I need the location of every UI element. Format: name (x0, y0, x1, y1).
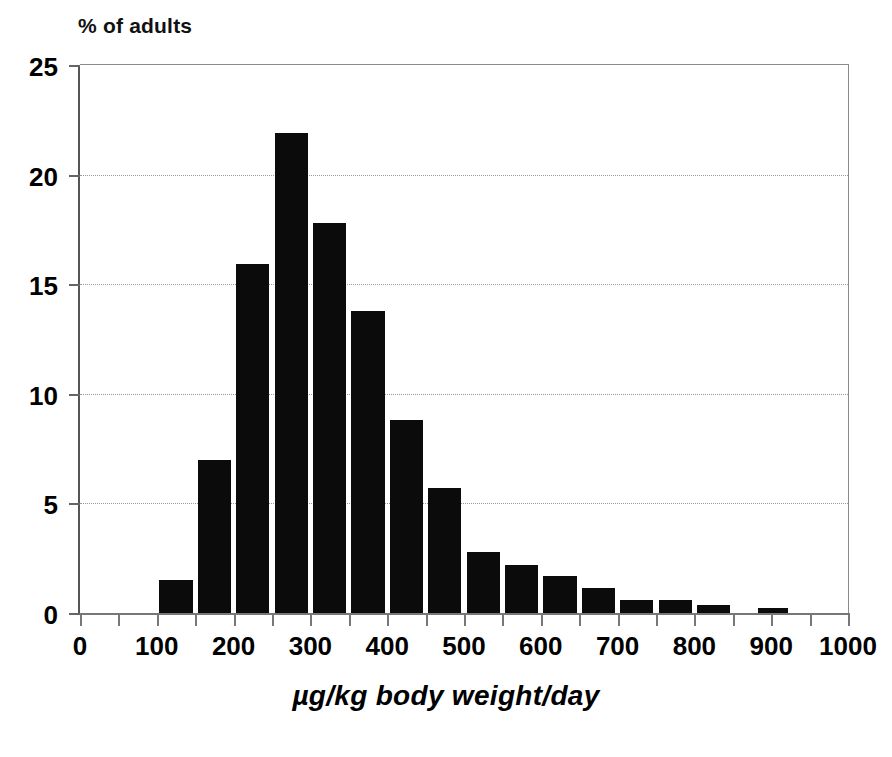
bar-350-400 (351, 311, 384, 613)
x-tick-label-800: 800 (673, 633, 716, 659)
x-tick-900 (771, 613, 773, 626)
histogram-figure: % of adults 0510152025 01002003004005006… (0, 0, 892, 757)
y-tick-label-20: 20 (29, 164, 58, 190)
bar-650-700 (582, 588, 615, 613)
x-axis-title: µg/kg body weight/day (0, 680, 892, 712)
bar-100-150 (159, 580, 192, 613)
bar-450-500 (428, 488, 461, 613)
x-tick-label-1000: 1000 (819, 633, 877, 659)
x-tick-750 (656, 613, 658, 626)
x-tick-650 (579, 613, 581, 626)
x-tick-label-200: 200 (212, 633, 255, 659)
plot-top-border (80, 64, 848, 65)
x-tick-500 (464, 613, 466, 626)
x-tick-100 (157, 613, 159, 626)
y-tick-0: 0 (69, 613, 80, 615)
x-tick-1000 (848, 613, 850, 626)
x-tick-400 (387, 613, 389, 626)
y-tick-20: 20 (69, 175, 80, 177)
x-tick-label-600: 600 (519, 633, 562, 659)
bar-150-200 (198, 460, 231, 613)
x-tick-label-400: 400 (365, 633, 408, 659)
x-tick-label-100: 100 (135, 633, 178, 659)
x-tick-450 (426, 613, 428, 626)
gridline-15 (80, 284, 848, 286)
y-axis-title: % of adults (78, 14, 192, 38)
x-tick-label-300: 300 (289, 633, 332, 659)
x-tick-600 (541, 613, 543, 626)
x-tick-250 (272, 613, 274, 626)
x-tick-50 (118, 613, 120, 626)
y-tick-5: 5 (69, 503, 80, 505)
y-tick-15: 15 (69, 284, 80, 286)
y-tick-label-15: 15 (29, 273, 58, 299)
gridline-5 (80, 503, 848, 505)
bar-500-550 (467, 552, 500, 613)
bar-800-850 (697, 605, 730, 613)
x-tick-150 (195, 613, 197, 626)
y-tick-label-25: 25 (29, 54, 58, 80)
x-tick-850 (733, 613, 735, 626)
x-tick-300 (310, 613, 312, 626)
plot-right-border (848, 64, 849, 613)
bar-250-300 (275, 133, 308, 613)
gridline-10 (80, 394, 848, 396)
bar-200-250 (236, 264, 269, 613)
x-tick-label-500: 500 (442, 633, 485, 659)
x-tick-label-900: 900 (749, 633, 792, 659)
x-tick-550 (502, 613, 504, 626)
bar-400-450 (390, 420, 423, 613)
x-tick-800 (694, 613, 696, 626)
bar-750-800 (659, 600, 692, 613)
bar-700-750 (620, 600, 653, 613)
x-tick-350 (349, 613, 351, 626)
x-tick-label-700: 700 (596, 633, 639, 659)
y-tick-25: 25 (69, 65, 80, 67)
y-tick-label-5: 5 (44, 492, 58, 518)
gridline-20 (80, 175, 848, 177)
x-tick-0 (80, 613, 82, 626)
bar-600-650 (543, 576, 576, 613)
plot-area: 0510152025 01002003004005006007008009001… (78, 65, 848, 615)
x-tick-950 (810, 613, 812, 626)
y-tick-label-0: 0 (44, 602, 58, 628)
y-tick-label-10: 10 (29, 383, 58, 409)
x-tick-200 (234, 613, 236, 626)
x-tick-700 (618, 613, 620, 626)
y-tick-10: 10 (69, 394, 80, 396)
x-tick-label-0: 0 (73, 633, 87, 659)
bar-300-350 (313, 223, 346, 613)
bar-550-600 (505, 565, 538, 613)
